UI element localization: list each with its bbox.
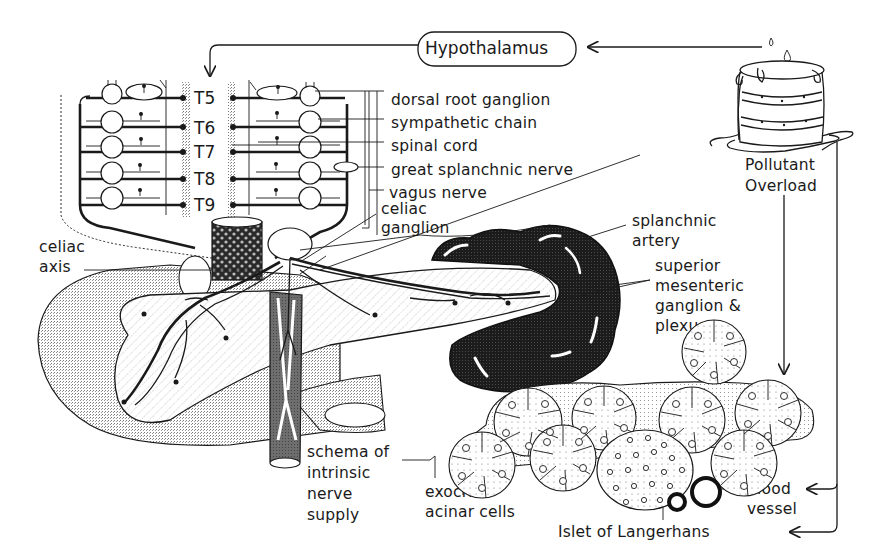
label-splanchnic-artery-1: splanchnic bbox=[632, 212, 717, 230]
spinal-segment-labels: T5 T6 T7 T8 T9 bbox=[193, 88, 215, 215]
celiac-ganglion bbox=[268, 228, 312, 260]
sympathetic-chain-left bbox=[101, 80, 166, 209]
label-sup-mesenteric-3: ganglion & bbox=[655, 297, 741, 315]
segment-t7: T7 bbox=[193, 142, 215, 162]
label-sup-mesenteric-2: mesenteric bbox=[655, 277, 744, 295]
segment-t9: T9 bbox=[193, 195, 215, 215]
pancreas-innervation-diagram: Hypothalamus Pollutant Overload bbox=[0, 0, 876, 556]
overflowing-barrel-icon bbox=[710, 38, 853, 152]
aorta bbox=[212, 217, 262, 280]
spine-labels: dorsal root ganglion sympathetic chain s… bbox=[381, 91, 573, 237]
segment-t5: T5 bbox=[193, 88, 215, 108]
label-great-splanchnic-nerve: great splanchnic nerve bbox=[391, 161, 573, 179]
label-blood-vessel-2: vessel bbox=[747, 500, 797, 518]
segment-t6: T6 bbox=[193, 118, 215, 138]
label-celiac-axis-1: celiac bbox=[39, 238, 85, 256]
label-islet: Islet of Langerhans bbox=[558, 523, 710, 541]
pollutant-label-line1: Pollutant bbox=[745, 156, 815, 174]
hypothalamus-label: Hypothalamus bbox=[425, 38, 548, 58]
label-sympathetic-chain: sympathetic chain bbox=[391, 114, 537, 132]
hypothalamus-node: Hypothalamus bbox=[418, 32, 576, 66]
pollutant-to-islet-arrow bbox=[790, 142, 837, 532]
label-splanchnic-artery-2: artery bbox=[632, 232, 680, 250]
droplet-icon bbox=[770, 38, 774, 46]
label-schema-2: intrinsic bbox=[307, 464, 370, 482]
label-spinal-cord: spinal cord bbox=[391, 137, 478, 155]
label-celiac-ganglion-1: celiac bbox=[381, 200, 427, 218]
label-dorsal-root-ganglion: dorsal root ganglion bbox=[391, 91, 550, 109]
label-sup-mesenteric-1: superior bbox=[655, 257, 721, 275]
hypothalamus-to-spine-arrow bbox=[210, 45, 418, 76]
label-schema-3: nerve bbox=[307, 485, 352, 503]
label-exocrine-2: acinar cells bbox=[425, 503, 515, 521]
label-celiac-axis-2: axis bbox=[39, 258, 71, 276]
vertical-vessel bbox=[270, 292, 302, 468]
label-schema-4: supply bbox=[307, 506, 359, 524]
pollutant-label-line2: Overload bbox=[745, 177, 817, 195]
segment-t8: T8 bbox=[193, 169, 215, 189]
sympathetic-chain-right bbox=[250, 82, 358, 209]
label-celiac-ganglion-2: ganglion bbox=[381, 219, 450, 237]
label-schema-1: schema of bbox=[307, 443, 390, 461]
